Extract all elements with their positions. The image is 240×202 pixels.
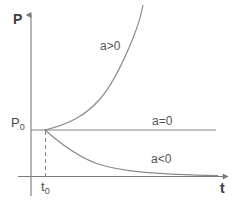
x-axis-label: t [220,181,225,195]
annotation-a-greater-zero: a>0 [100,40,120,52]
plot-canvas [0,0,240,202]
p0-base: P [11,115,20,130]
curve-a-less-zero [45,130,218,176]
annotation-a-equals-zero: a=0 [152,115,172,127]
branch-point [45,129,47,131]
p0-subscript: 0 [20,122,25,132]
annotation-a-less-zero: a<0 [151,153,171,165]
x-tick-label-t0: t0 [41,180,50,196]
y-axis-label: P [13,12,22,26]
y-tick-label-p0: P0 [11,116,25,132]
plot-figure: P t P0 t0 a>0 a=0 a<0 [0,0,240,202]
curve-a-greater-zero [45,5,143,130]
t0-subscript: 0 [45,186,50,196]
